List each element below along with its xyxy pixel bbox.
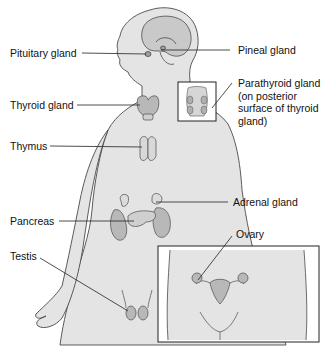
label-adrenal-gland: Adrenal gland [233,196,298,209]
label-thyroid-gland: Thyroid gland [10,99,74,112]
parathyroid-inset [178,82,216,121]
label-parathyroid-gland: Parathyroid gland (on posterior surface … [238,77,320,127]
label-testis: Testis [10,250,37,263]
thymus-shape [140,136,156,160]
label-pancreas: Pancreas [10,215,54,228]
pineal-gland-shape [161,46,166,50]
label-pituitary-gland: Pituitary gland [10,47,77,60]
label-thymus: Thymus [10,140,47,153]
label-ovary: Ovary [236,228,264,241]
left-adrenal-shape [120,194,128,206]
ovary-inset [158,246,319,342]
label-pineal-gland: Pineal gland [238,44,296,57]
right-adrenal-shape [152,194,162,205]
left-ovary-shape [192,273,202,283]
right-ovary-shape [238,273,248,283]
